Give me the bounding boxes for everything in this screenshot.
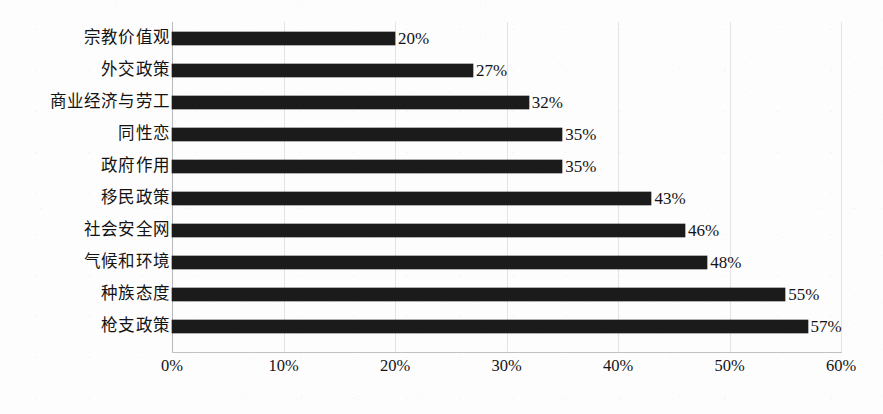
x-tick-label: 60% bbox=[826, 358, 856, 375]
bar-value-label: 55% bbox=[788, 286, 819, 303]
bar-row: 社会安全网46% bbox=[172, 214, 841, 246]
bar bbox=[172, 128, 562, 141]
bar-value-label: 48% bbox=[710, 254, 741, 271]
bar-row: 气候和环境48% bbox=[172, 246, 841, 278]
bar-value-label: 27% bbox=[476, 62, 507, 79]
gridline-60 bbox=[841, 22, 842, 352]
x-tick-label: 10% bbox=[268, 358, 298, 375]
x-tick-label: 0% bbox=[161, 358, 183, 375]
bar-value-label: 35% bbox=[565, 126, 596, 143]
bar-and-value: 55% bbox=[172, 278, 819, 310]
bar-row: 同性恋35% bbox=[172, 118, 841, 150]
bar bbox=[172, 256, 707, 269]
bar-and-value: 27% bbox=[172, 54, 507, 86]
x-tick-label: 50% bbox=[714, 358, 744, 375]
bar-row: 外交政策27% bbox=[172, 54, 841, 86]
bar-row: 种族态度55% bbox=[172, 278, 841, 310]
bar-row: 移民政策43% bbox=[172, 182, 841, 214]
x-tick-label: 30% bbox=[491, 358, 521, 375]
bar-and-value: 35% bbox=[172, 150, 596, 182]
bar-chart: 宗教价值观20%外交政策27%商业经济与劳工32%同性恋35%政府作用35%移民… bbox=[0, 0, 883, 414]
category-label: 宗教价值观 bbox=[0, 22, 170, 54]
bar-row: 宗教价值观20% bbox=[172, 22, 841, 54]
category-label: 气候和环境 bbox=[0, 246, 170, 278]
x-tick-label: 20% bbox=[380, 358, 410, 375]
x-tick-label: 40% bbox=[603, 358, 633, 375]
bar-and-value: 46% bbox=[172, 214, 719, 246]
bar bbox=[172, 64, 473, 77]
bar-value-label: 46% bbox=[688, 222, 719, 239]
bar bbox=[172, 32, 395, 45]
bar bbox=[172, 160, 562, 173]
category-label: 商业经济与劳工 bbox=[0, 86, 170, 118]
bar bbox=[172, 192, 651, 205]
bar bbox=[172, 320, 808, 333]
bar-value-label: 43% bbox=[654, 190, 685, 207]
bar-value-label: 57% bbox=[811, 318, 842, 335]
category-label: 种族态度 bbox=[0, 278, 170, 310]
bar-row: 枪支政策57% bbox=[172, 310, 841, 342]
plot-area: 宗教价值观20%外交政策27%商业经济与劳工32%同性恋35%政府作用35%移民… bbox=[172, 22, 841, 352]
category-label: 社会安全网 bbox=[0, 214, 170, 246]
category-label: 移民政策 bbox=[0, 182, 170, 214]
bar-value-label: 35% bbox=[565, 158, 596, 175]
category-label: 外交政策 bbox=[0, 54, 170, 86]
bar bbox=[172, 288, 785, 301]
bar bbox=[172, 224, 685, 237]
bar bbox=[172, 96, 529, 109]
bar-and-value: 43% bbox=[172, 182, 686, 214]
bar-and-value: 48% bbox=[172, 246, 741, 278]
category-label: 枪支政策 bbox=[0, 310, 170, 342]
bar-and-value: 20% bbox=[172, 22, 429, 54]
bar-and-value: 32% bbox=[172, 86, 563, 118]
bar-and-value: 57% bbox=[172, 310, 842, 342]
bar-value-label: 20% bbox=[398, 30, 429, 47]
bar-row: 商业经济与劳工32% bbox=[172, 86, 841, 118]
category-label: 同性恋 bbox=[0, 118, 170, 150]
bar-and-value: 35% bbox=[172, 118, 596, 150]
bar-value-label: 32% bbox=[532, 94, 563, 111]
bar-row: 政府作用35% bbox=[172, 150, 841, 182]
x-axis-tick-labels: 0%10%20%30%40%50%60% bbox=[172, 358, 841, 388]
x-axis-line bbox=[172, 352, 842, 353]
category-label: 政府作用 bbox=[0, 150, 170, 182]
